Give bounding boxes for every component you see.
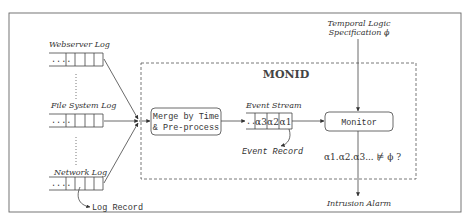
filesystem-log-label: File System Log xyxy=(50,101,116,110)
event-record-label: Event Record xyxy=(242,147,304,157)
webserver-log-label: Webserver Log xyxy=(49,40,110,49)
merge-line2: & Pre-process xyxy=(153,123,219,133)
stream-cell: α1 xyxy=(280,117,292,127)
satisfaction-query: α1.α2.α3... ⊭ ϕ ? xyxy=(324,152,401,162)
spec-line2: Specification ϕ xyxy=(329,28,390,37)
monid-diagram: MONID Webserver Log .... File System Log… xyxy=(0,0,468,223)
network-log-queue: .... xyxy=(49,177,103,190)
svg-text:....: .... xyxy=(51,55,71,65)
svg-text:....: .... xyxy=(51,179,71,189)
event-stream-label: Event Stream xyxy=(245,101,302,110)
network-to-merge-arrow xyxy=(104,123,138,183)
event-stream-queue: ... α3 α2 α1 xyxy=(246,113,292,129)
event-record-pointer xyxy=(281,129,290,146)
filesystem-log-queue: .... xyxy=(49,114,103,127)
webserver-to-merge-arrow xyxy=(104,59,138,119)
merge-line1: Merge by Time xyxy=(153,112,219,122)
monitor-label: Monitor xyxy=(341,118,377,128)
spec-line1: Temporal Logic xyxy=(328,19,391,28)
stream-cell: α3 xyxy=(255,117,267,127)
webserver-log-queue: .... xyxy=(49,53,103,66)
stream-cell: α2 xyxy=(267,117,279,127)
monid-title: MONID xyxy=(263,68,310,81)
log-record-label: Log Record xyxy=(92,203,143,213)
intrusion-alarm-label: Intrusion Alarm xyxy=(326,199,392,208)
network-log-label: Network Log xyxy=(53,168,107,177)
svg-text:....: .... xyxy=(51,116,71,126)
